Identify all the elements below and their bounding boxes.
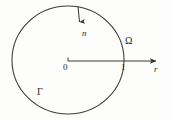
domain-omega-label: Ω — [125, 36, 132, 46]
boundary-gamma-label: Γ — [37, 87, 43, 97]
diagram-svg — [0, 0, 172, 120]
normal-vector-arrow — [78, 7, 80, 23]
figure-canvas: n Ω 0 1 r Γ — [0, 0, 172, 120]
unit-radius-label: 1 — [121, 63, 126, 72]
origin-label: 0 — [63, 63, 68, 72]
normal-vector-label: n — [82, 29, 87, 38]
radial-axis-label: r — [154, 65, 158, 74]
